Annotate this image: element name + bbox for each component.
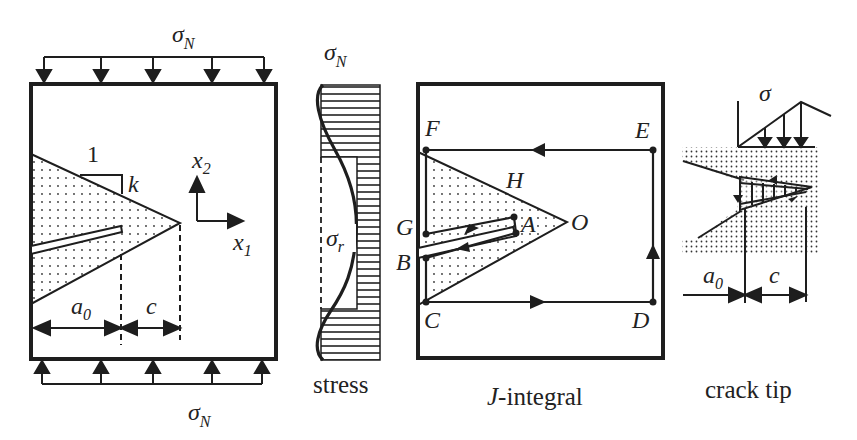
point-H: H (505, 167, 525, 193)
crack-tip-panel: σ a0 c c (682, 80, 831, 403)
point-A: A (519, 211, 536, 237)
j-wedge (418, 152, 567, 305)
point-G: G (396, 214, 413, 240)
dim-c-label: c (146, 293, 157, 319)
stress-distribution-hatch (321, 85, 380, 360)
top-load-label: σN (172, 21, 196, 52)
specimen-body (31, 84, 276, 138)
point-F: F (424, 115, 440, 141)
crack-tip-load-label: σ (759, 80, 772, 106)
slope-run-label: 1 (87, 141, 99, 167)
dimension-arrows (34, 321, 180, 335)
point-C: C (424, 307, 441, 333)
crack-tip-c-label: c (769, 262, 780, 288)
top-load-arrows (37, 57, 271, 82)
specimen-panel: σN 1 k x2 x1 (31, 21, 276, 430)
point-D: D (631, 307, 649, 333)
point-O: O (571, 209, 588, 235)
bottom-load-arrows (35, 361, 269, 384)
crack-tip-caption: crack tip (705, 376, 792, 403)
slope-rise-label: k (128, 171, 139, 197)
j-integral-panel: F E H G A O B C D J-integral (396, 84, 663, 410)
stress-caption: stress (313, 371, 369, 398)
coordinate-axes (190, 177, 243, 228)
axis-x2-label: x2 (191, 147, 211, 177)
point-E: E (634, 117, 650, 143)
stress-top-label: σN (324, 39, 348, 70)
dim-a0-label: a0 (71, 293, 91, 323)
j-integral-caption: J-integral (487, 383, 583, 410)
bottom-load-label: σN (188, 399, 212, 430)
stress-panel: σN σr stress (313, 39, 380, 398)
point-B: B (396, 249, 411, 275)
crack-tip-a0-label: a0 (703, 262, 723, 292)
crack-tip-load (738, 101, 831, 147)
axis-x1-label: x1 (232, 229, 252, 259)
